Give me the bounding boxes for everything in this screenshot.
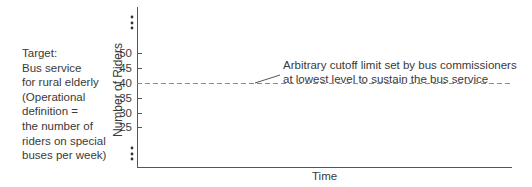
- ellipsis-bottom-icon: [131, 147, 134, 161]
- annotation-leader-line: [255, 75, 280, 83]
- chart-canvas: [0, 0, 532, 187]
- cutoff-annotation: Arbitrary cutoff limit set by bus commis…: [283, 58, 517, 86]
- x-axis-title: Time: [312, 170, 337, 182]
- ellipsis-top-icon: [131, 16, 134, 30]
